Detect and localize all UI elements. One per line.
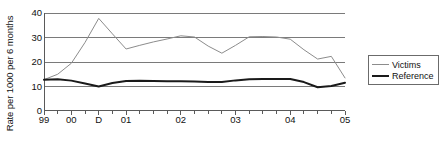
x-tick-label: 05 [340,114,351,125]
x-tick-label: 99 [39,114,50,125]
legend-item-reference: Reference [372,70,434,81]
plot-svg [44,13,345,111]
y-tick-label: 30 [16,33,42,43]
x-axis-tick-labels: 9900D0102030405 [44,114,345,130]
legend-label-reference: Reference [392,71,434,81]
y-axis-tick-labels: 010203040 [12,0,42,147]
x-tick-label: 00 [66,114,77,125]
x-tick-label: 02 [176,114,187,125]
chart-legend: Victims Reference [368,55,439,85]
legend-label-victims: Victims [392,60,421,70]
legend-swatch-reference [372,75,389,77]
x-tick-label: D [95,114,102,125]
plot-area [44,13,345,111]
y-tick-label: 40 [16,8,42,18]
legend-swatch-victims [372,64,389,65]
line-chart: Rate per 1000 per 6 months 010203040 990… [0,0,447,147]
gridlines [44,13,345,87]
y-tick-label: 20 [16,57,42,67]
x-tick-label: 04 [285,114,296,125]
y-tick-label: 10 [16,82,42,92]
x-tick-label: 03 [230,114,241,125]
legend-item-victims: Victims [372,59,434,70]
x-tick-label: 01 [121,114,132,125]
series-lines [44,18,345,87]
